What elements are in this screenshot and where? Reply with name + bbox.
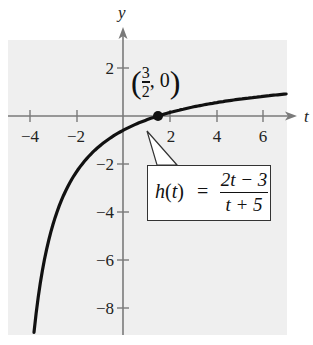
point-label-rest: , 0 — [150, 69, 170, 91]
function-denominator: t + 5 — [218, 193, 270, 217]
x-axis-label: t — [304, 107, 310, 126]
point-label-open-paren: ( — [131, 64, 142, 100]
point-label: (32, 0) — [131, 62, 180, 102]
y-tick-label: −8 — [96, 299, 114, 318]
x-intercept-point — [153, 111, 163, 121]
function-numerator: 2t − 3 — [218, 168, 270, 192]
function-label-callout: h(t) = 2t − 3 t + 5 — [147, 165, 271, 221]
point-label-numerator: 3 — [142, 64, 150, 81]
y-tick-label: −2 — [96, 155, 114, 174]
y-tick-label: 2 — [106, 59, 115, 78]
point-label-close-paren: ) — [170, 64, 181, 100]
function-name: h(t) — [155, 180, 184, 203]
x-tick-label: 2 — [167, 127, 176, 146]
y-axis-label: y — [116, 3, 126, 22]
equals-sign: = — [197, 180, 208, 203]
x-tick-label: −4 — [21, 127, 40, 146]
function-fraction: 2t − 3 t + 5 — [218, 168, 270, 217]
y-tick-label: −6 — [96, 251, 114, 270]
x-tick-label: 6 — [259, 127, 268, 146]
point-label-denominator: 2 — [142, 83, 150, 100]
x-tick-label: 4 — [213, 127, 222, 146]
x-tick-label: −2 — [67, 127, 85, 146]
point-label-fraction: 32 — [142, 64, 150, 99]
y-tick-label: −4 — [96, 203, 115, 222]
